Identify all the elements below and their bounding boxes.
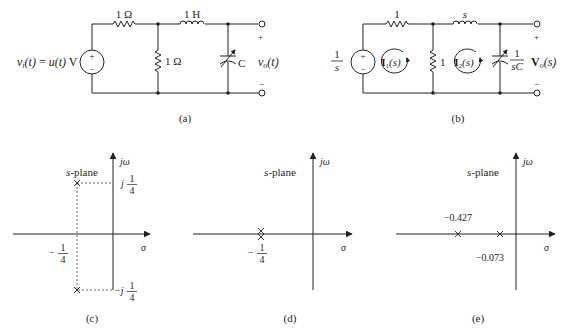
source-minus: − — [89, 64, 94, 74]
caption-a: (a) — [179, 112, 192, 125]
pole-plot-e: s-plane jω σ −0.427 −0.073 (e) — [396, 153, 555, 325]
imag-label-neg-num: 1 — [130, 280, 135, 291]
real-label-num: 1 — [260, 242, 265, 253]
source-plus-b: + — [360, 51, 365, 61]
output-terminal-plus — [259, 21, 265, 27]
cap-impedance-den: sC — [511, 60, 523, 72]
real-label-sign: − — [49, 247, 55, 258]
imag-label-pos-den: 4 — [130, 185, 135, 196]
source-value-num: 1 — [334, 48, 340, 60]
y-axis-label: jω — [318, 156, 330, 167]
shunt-resistor-1ohm — [155, 50, 161, 72]
pole-plot-c: s-plane jω σ j 1 4 −j 1 4 − 1 4 (c) — [13, 153, 150, 325]
terminal-minus: − — [259, 79, 264, 89]
pole-marker — [74, 180, 80, 186]
imag-label-pos-j: j — [119, 178, 124, 189]
s-plane-label: s-plane — [264, 166, 296, 178]
real-label-sign: − — [248, 247, 254, 258]
caption-c: (c) — [86, 312, 99, 325]
pole-label-1: −0.427 — [444, 212, 472, 223]
x-axis-label: σ — [544, 242, 550, 253]
real-label-num: 1 — [61, 242, 66, 253]
s-plane-label: s-plane — [66, 166, 98, 178]
label-inductor-b: s — [463, 8, 467, 20]
output-terminal-minus-b — [534, 90, 540, 96]
label-series-resistor: 1 Ω — [116, 8, 132, 20]
y-axis-label: jω — [118, 156, 130, 167]
output-terminal-minus — [259, 90, 265, 96]
node-dot — [226, 22, 230, 26]
node-dot — [431, 91, 435, 95]
source-plus: + — [89, 51, 94, 61]
caption-d: (d) — [284, 312, 297, 325]
label-shunt-resistor-b: 1 — [440, 56, 446, 68]
caption-e: (e) — [472, 312, 485, 325]
inductor-1H — [180, 21, 204, 24]
figure-canvas: + − vi(t) = u(t) V 1 Ω 1 H 1 Ω C + − vo(… — [0, 0, 569, 334]
circuit-a: + − vi(t) = u(t) V 1 Ω 1 H 1 Ω C + − vo(… — [17, 8, 279, 125]
imag-label-pos-num: 1 — [130, 173, 135, 184]
dashed-guides — [77, 183, 113, 290]
x-axis-label: σ — [341, 242, 347, 253]
terminal-plus: + — [258, 32, 263, 42]
label-inductor: 1 H — [184, 8, 200, 20]
node-dot — [156, 22, 160, 26]
circuit-b: + − 1 s I1(s) I2(s) 1 s 1 1 sC + − Vo(s)… — [331, 8, 556, 125]
label-capacitor: C — [238, 57, 245, 69]
mesh-current-2: I2(s) — [454, 56, 474, 70]
output-terminal-plus-b — [534, 21, 540, 27]
terminal-minus-b: − — [534, 79, 539, 89]
shunt-resistor-b — [430, 50, 436, 72]
imag-label-neg-j: −j — [114, 285, 124, 296]
pole-label-2: −0.073 — [476, 252, 504, 263]
label-shunt-resistor: 1 Ω — [165, 55, 181, 67]
label-series-resistor-b: 1 — [394, 8, 400, 20]
series-resistor-1ohm — [113, 21, 135, 27]
source-label-a: vi(t) = u(t) V — [17, 55, 78, 70]
x-axis-label: σ — [141, 242, 147, 253]
node-dot — [226, 91, 230, 95]
real-label-den: 4 — [61, 254, 66, 265]
y-axis-label: jω — [521, 156, 533, 167]
node-dot — [156, 91, 160, 95]
terminal-plus-b: + — [534, 32, 539, 42]
imag-label-neg-den: 4 — [130, 292, 135, 303]
node-dot — [498, 22, 502, 26]
series-resistor-b — [386, 21, 408, 27]
source-value-den: s — [335, 61, 339, 73]
cap-impedance-num: 1 — [514, 47, 520, 59]
node-dot — [498, 91, 502, 95]
real-label-den: 4 — [260, 254, 265, 265]
mesh-current-1: I1(s) — [381, 56, 401, 70]
s-plane-label: s-plane — [467, 166, 499, 178]
pole-plot-d: s-plane jω σ − 1 4 (d) — [193, 153, 352, 325]
output-label-a: vo(t) — [258, 55, 279, 70]
output-label-b: Vo(s) — [531, 55, 556, 70]
node-dot — [431, 22, 435, 26]
caption-b: (b) — [452, 112, 465, 125]
inductor-b — [453, 21, 477, 24]
source-minus-b: − — [360, 64, 365, 74]
